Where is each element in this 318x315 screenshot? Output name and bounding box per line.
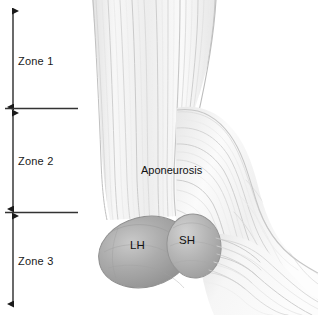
anatomical-figure: Zone 1 Zone 2 Zone 3 Aponeurosis LH SH: [0, 0, 318, 315]
zone-1-label: Zone 1: [18, 55, 53, 67]
zone-2-label: Zone 2: [18, 155, 53, 167]
long-head-label: LH: [130, 239, 145, 251]
aponeurosis-label: Aponeurosis: [141, 164, 202, 176]
short-head-label: SH: [179, 234, 195, 246]
zone-3-label: Zone 3: [18, 255, 53, 267]
